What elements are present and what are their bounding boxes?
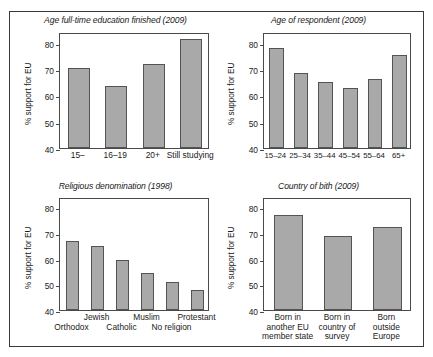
x-tick-label-age-5: 65+ bbox=[373, 151, 424, 161]
y-tick-label-birth-50: 50 bbox=[249, 281, 258, 291]
y-tick-label-birth-60: 60 bbox=[249, 256, 258, 266]
y-tick-label-religion-60: 60 bbox=[45, 256, 54, 266]
bar-religion-2 bbox=[116, 260, 129, 310]
bar-religion-0 bbox=[66, 241, 79, 310]
y-tick-label-religion-40: 40 bbox=[45, 307, 54, 317]
bar-religion-3 bbox=[141, 273, 154, 310]
plot-area-birth: 4050607080 bbox=[263, 198, 411, 311]
bar-religion-5 bbox=[191, 290, 204, 310]
bar-birth-1 bbox=[324, 236, 353, 310]
plot-area-education: 4050607080 bbox=[59, 33, 209, 149]
y-tick-birth-70 bbox=[260, 235, 264, 236]
bar-education-0 bbox=[68, 68, 90, 148]
chart-panel-birth: Country of bith (2009)% support for EU40… bbox=[217, 181, 420, 345]
x-tick-label-religion-2: Catholic bbox=[96, 323, 147, 333]
y-tick-education-80 bbox=[56, 45, 60, 46]
chart-panel-age: Age of respondent (2009)% support for EU… bbox=[217, 15, 420, 181]
y-tick-age-50 bbox=[260, 124, 264, 125]
y-tick-label-education-50: 50 bbox=[45, 119, 54, 129]
chart-title-birth: Country of bith (2009) bbox=[217, 181, 420, 191]
y-tick-religion-80 bbox=[56, 209, 60, 210]
y-axis-label-birth: % support for EU bbox=[227, 226, 236, 288]
x-tick-label-religion-5: Protestant bbox=[171, 313, 222, 323]
y-tick-label-age-50: 50 bbox=[249, 119, 258, 129]
y-tick-label-age-80: 80 bbox=[249, 40, 258, 50]
y-tick-label-education-70: 70 bbox=[45, 66, 54, 76]
bar-education-1 bbox=[105, 86, 127, 148]
y-tick-age-80 bbox=[260, 45, 264, 46]
x-tick-label-birth-2: Born outside Europe bbox=[349, 313, 424, 342]
bar-religion-4 bbox=[166, 282, 179, 310]
bar-birth-2 bbox=[373, 227, 402, 310]
y-tick-birth-60 bbox=[260, 261, 264, 262]
bar-age-3 bbox=[343, 88, 358, 148]
y-tick-label-birth-80: 80 bbox=[249, 204, 258, 214]
y-tick-religion-40 bbox=[56, 312, 60, 313]
figure-panel-group: Age full-time education finished (2009)%… bbox=[9, 11, 424, 347]
plot-area-age: 4050607080 bbox=[263, 33, 411, 149]
x-tick-label-religion-0: Orthodox bbox=[46, 323, 97, 333]
bar-age-2 bbox=[318, 82, 333, 148]
y-tick-age-60 bbox=[260, 97, 264, 98]
bar-education-2 bbox=[143, 64, 165, 148]
chart-panel-religion: Religious denomination (1998)% support f… bbox=[14, 181, 217, 345]
y-tick-label-age-60: 60 bbox=[249, 92, 258, 102]
plot-area-religion: 4050607080 bbox=[59, 198, 209, 311]
y-axis-label-religion: % support for EU bbox=[24, 226, 33, 288]
x-tick-label-education-3: Still studying bbox=[159, 151, 223, 161]
bar-age-5 bbox=[392, 55, 407, 148]
y-tick-label-religion-70: 70 bbox=[45, 230, 54, 240]
y-tick-education-50 bbox=[56, 124, 60, 125]
y-tick-education-70 bbox=[56, 71, 60, 72]
y-axis-label-education: % support for EU bbox=[24, 63, 33, 125]
y-tick-label-religion-50: 50 bbox=[45, 281, 54, 291]
y-tick-birth-80 bbox=[260, 209, 264, 210]
chart-title-education: Age full-time education finished (2009) bbox=[14, 15, 217, 25]
bar-birth-0 bbox=[274, 215, 303, 310]
bar-religion-1 bbox=[91, 246, 104, 310]
y-tick-religion-50 bbox=[56, 286, 60, 287]
y-tick-label-age-70: 70 bbox=[249, 66, 258, 76]
bar-age-0 bbox=[269, 48, 284, 148]
y-tick-label-birth-70: 70 bbox=[249, 230, 258, 240]
y-tick-label-education-60: 60 bbox=[45, 92, 54, 102]
chart-title-age: Age of respondent (2009) bbox=[217, 15, 420, 25]
y-tick-religion-70 bbox=[56, 235, 60, 236]
y-tick-education-60 bbox=[56, 97, 60, 98]
y-tick-religion-60 bbox=[56, 261, 60, 262]
bar-education-3 bbox=[180, 39, 202, 148]
y-tick-label-religion-80: 80 bbox=[45, 204, 54, 214]
y-tick-birth-50 bbox=[260, 286, 264, 287]
chart-panel-education: Age full-time education finished (2009)%… bbox=[14, 15, 217, 181]
bar-age-1 bbox=[294, 73, 309, 148]
bar-age-4 bbox=[368, 79, 383, 148]
y-axis-label-age: % support for EU bbox=[227, 63, 236, 125]
y-tick-label-education-80: 80 bbox=[45, 40, 54, 50]
x-tick-label-religion-4: No religion bbox=[146, 323, 197, 333]
y-tick-age-70 bbox=[260, 71, 264, 72]
chart-title-religion: Religious denomination (1998) bbox=[14, 181, 217, 191]
